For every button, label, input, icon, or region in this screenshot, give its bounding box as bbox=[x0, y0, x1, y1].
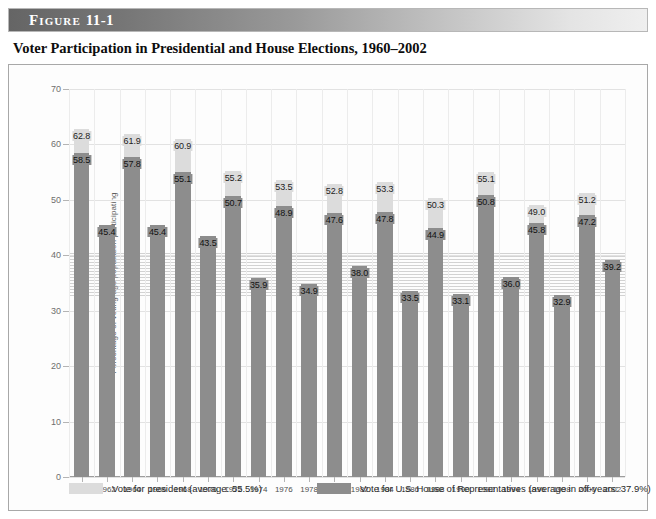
figure-title: Voter Participation in Presidential and … bbox=[13, 40, 427, 57]
bar-group[interactable]: 33.1 bbox=[453, 294, 469, 477]
x-tick-mark bbox=[360, 477, 361, 482]
bar-value-house: 43.5 bbox=[198, 238, 217, 248]
vertical-separator bbox=[625, 89, 626, 477]
vertical-separator bbox=[448, 89, 449, 477]
vertical-separator bbox=[574, 89, 575, 477]
bar-group[interactable]: 32.9 bbox=[554, 295, 570, 477]
bar-value-president: 51.2 bbox=[578, 195, 597, 205]
bar-value-president: 55.1 bbox=[476, 174, 495, 184]
bar-house[interactable] bbox=[352, 266, 368, 477]
bar-value-house: 48.9 bbox=[274, 208, 293, 218]
y-tick-label: 40 bbox=[35, 250, 61, 260]
bar-group[interactable]: 60.955.1 bbox=[175, 139, 191, 477]
bar-house[interactable] bbox=[74, 153, 90, 477]
x-tick-mark bbox=[486, 477, 487, 482]
x-tick-mark bbox=[132, 477, 133, 482]
bar-value-house: 47.6 bbox=[325, 215, 344, 225]
y-tick-label: 30 bbox=[35, 306, 61, 316]
bar-house[interactable] bbox=[301, 284, 317, 477]
x-tick-mark bbox=[587, 477, 588, 482]
x-tick-mark bbox=[435, 477, 436, 482]
x-tick-mark bbox=[612, 477, 613, 482]
vertical-separator bbox=[473, 89, 474, 477]
bar-value-house: 45.4 bbox=[97, 227, 116, 237]
bar-house[interactable] bbox=[99, 225, 115, 477]
x-tick-mark bbox=[537, 477, 538, 482]
bar-house[interactable] bbox=[276, 206, 292, 477]
figure-header-band: Figure 11-1 bbox=[8, 8, 648, 32]
x-tick-mark bbox=[183, 477, 184, 482]
figure-number: 11-1 bbox=[86, 12, 114, 28]
bar-group[interactable]: 35.9 bbox=[251, 278, 267, 477]
bar-house[interactable] bbox=[478, 195, 494, 477]
bar-group[interactable]: 53.548.9 bbox=[276, 180, 292, 477]
bar-group[interactable]: 55.150.8 bbox=[478, 172, 494, 477]
bar-group[interactable]: 34.9 bbox=[301, 284, 317, 477]
bar-group[interactable]: 55.250.7 bbox=[225, 171, 241, 477]
bar-house[interactable] bbox=[453, 294, 469, 477]
bar-group[interactable]: 33.5 bbox=[402, 291, 418, 477]
bar-house[interactable] bbox=[402, 291, 418, 477]
vertical-separator bbox=[549, 89, 550, 477]
bar-house[interactable] bbox=[579, 215, 595, 477]
bar-value-house: 58.5 bbox=[72, 155, 91, 165]
bar-value-house: 33.5 bbox=[401, 293, 420, 303]
legend-swatch-president bbox=[69, 483, 103, 494]
bar-house[interactable] bbox=[377, 212, 393, 477]
bar-house[interactable] bbox=[251, 278, 267, 477]
bar-group[interactable]: 45.4 bbox=[150, 225, 166, 477]
bar-house[interactable] bbox=[124, 157, 140, 477]
bar-group[interactable]: 45.4 bbox=[99, 225, 115, 477]
vertical-separator bbox=[271, 89, 272, 477]
bar-value-president: 60.9 bbox=[173, 141, 192, 151]
x-tick-mark bbox=[461, 477, 462, 482]
bar-house[interactable] bbox=[225, 196, 241, 477]
plot-area: Percentage of voting-age population part… bbox=[69, 89, 625, 477]
bar-house[interactable] bbox=[529, 223, 545, 477]
bar-value-house: 33.1 bbox=[451, 296, 470, 306]
figure-label-word: Figure bbox=[29, 12, 81, 28]
x-tick-mark bbox=[208, 477, 209, 482]
bar-house[interactable] bbox=[327, 213, 343, 477]
bar-group[interactable]: 61.957.8 bbox=[124, 134, 140, 477]
bar-house[interactable] bbox=[175, 172, 191, 477]
bar-group[interactable]: 39.2 bbox=[605, 260, 621, 477]
x-tick-mark bbox=[410, 477, 411, 482]
y-tick-label: 20 bbox=[35, 361, 61, 371]
bar-value-house: 39.2 bbox=[603, 262, 622, 272]
bar-house[interactable] bbox=[605, 260, 621, 477]
figure-page: Figure 11-1 Voter Participation in Presi… bbox=[0, 0, 656, 519]
bar-group[interactable]: 36.0 bbox=[503, 277, 519, 477]
vertical-separator bbox=[195, 89, 196, 477]
x-tick-mark bbox=[233, 477, 234, 482]
bar-house[interactable] bbox=[200, 236, 216, 477]
gridline bbox=[69, 477, 625, 478]
vertical-separator bbox=[372, 89, 373, 477]
bar-group[interactable]: 50.344.9 bbox=[428, 198, 444, 477]
bar-group[interactable]: 51.247.2 bbox=[579, 193, 595, 477]
vertical-separator bbox=[600, 89, 601, 477]
bar-value-house: 57.8 bbox=[123, 159, 142, 169]
vertical-separator bbox=[120, 89, 121, 477]
bar-value-house: 47.8 bbox=[375, 214, 394, 224]
bar-value-president: 55.2 bbox=[224, 173, 243, 183]
bar-value-house: 44.9 bbox=[426, 230, 445, 240]
bar-group[interactable]: 62.858.5 bbox=[74, 129, 90, 477]
bar-group[interactable]: 38.0 bbox=[352, 266, 368, 477]
bar-group[interactable]: 53.347.8 bbox=[377, 182, 393, 477]
bar-value-house: 45.4 bbox=[148, 227, 167, 237]
x-tick-mark bbox=[562, 477, 563, 482]
bar-house[interactable] bbox=[150, 225, 166, 477]
bar-group[interactable]: 43.5 bbox=[200, 236, 216, 477]
y-tick-label: 10 bbox=[35, 417, 61, 427]
y-tick-label: 70 bbox=[35, 84, 61, 94]
bar-group[interactable]: 49.045.8 bbox=[529, 205, 545, 477]
bar-group[interactable]: 52.847.6 bbox=[327, 184, 343, 477]
bar-value-house: 55.1 bbox=[173, 174, 192, 184]
bar-house[interactable] bbox=[428, 228, 444, 477]
bar-house[interactable] bbox=[554, 295, 570, 477]
bar-value-president: 52.8 bbox=[325, 186, 344, 196]
bar-value-house: 47.2 bbox=[578, 217, 597, 227]
vertical-separator bbox=[499, 89, 500, 477]
bar-house[interactable] bbox=[503, 277, 519, 477]
